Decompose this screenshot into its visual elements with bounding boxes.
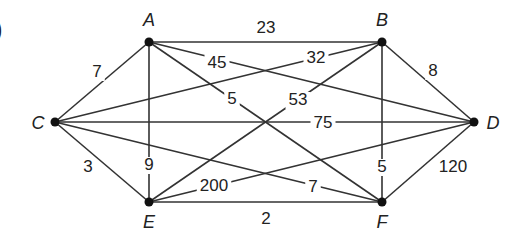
node-e-dot (145, 198, 154, 207)
edge-weight-label: 5 (227, 89, 236, 108)
node-a-dot (145, 38, 154, 47)
node-d-dot (470, 118, 479, 127)
node-f-label: F (377, 212, 389, 232)
edge-weight-label: 200 (200, 176, 228, 195)
edge-weight-label: 7 (308, 177, 317, 196)
edge-weight-label: 2 (261, 209, 270, 228)
edge-weight-label: 9 (144, 155, 153, 174)
edge-weight-label: 5 (377, 157, 386, 176)
nodes-layer: ABCDEF (32, 10, 500, 232)
edge-weight-label: 53 (289, 90, 308, 109)
edge-weight-label: 7 (92, 62, 101, 81)
node-e-label: E (143, 212, 156, 232)
node-f-dot (378, 198, 387, 207)
edge-weight-label: 32 (307, 48, 326, 67)
edge-weight-label: 45 (208, 53, 227, 72)
edge-weight-label: 120 (439, 157, 467, 176)
edge-weight-label: 8 (428, 61, 437, 80)
edge-labels-layer: 234557932538575372002120 (80, 18, 470, 228)
node-a-label: A (142, 10, 155, 30)
node-b-dot (378, 38, 387, 47)
edge-weight-label: 3 (83, 157, 92, 176)
weighted-graph-diagram: 234557932538575372002120 ABCDEF (0, 0, 516, 236)
node-c-label: C (32, 113, 46, 133)
node-c-dot (51, 118, 60, 127)
node-b-label: B (376, 10, 388, 30)
edge-weight-label: 75 (314, 113, 333, 132)
edges-layer (55, 42, 474, 202)
edge-weight-label: 23 (257, 18, 276, 37)
node-d-label: D (487, 113, 500, 133)
